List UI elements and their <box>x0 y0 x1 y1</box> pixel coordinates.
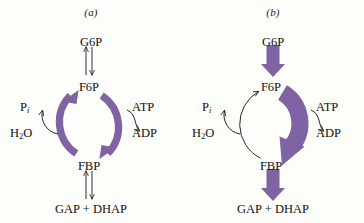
b-g6p-to-f6p-block-arrow <box>261 45 285 77</box>
b-left-cofactor-arrow <box>224 111 240 135</box>
a-label-h2o-o: O <box>23 126 32 140</box>
b-fbp-to-triose-block-arrow <box>261 169 285 201</box>
a-label-pi: Pi <box>20 101 29 114</box>
b-label-fbp: FBP <box>260 160 282 173</box>
a-label-h2o-h: H <box>10 126 19 140</box>
b-label-h2o: H2O <box>192 127 214 140</box>
b-label-pi: Pi <box>202 101 211 114</box>
a-label-gap-dhap: GAP + DHAP <box>55 203 127 216</box>
a-label-f6p: F6P <box>79 81 99 94</box>
b-label-pi-text: P <box>202 100 209 114</box>
a-label-adp: ADP <box>132 127 157 140</box>
b-label-g6p: G6P <box>262 36 284 49</box>
a-label-pi-subscript: i <box>27 105 29 115</box>
a-label-atp: ATP <box>132 101 154 114</box>
a-label-h2o: H2O <box>10 127 32 140</box>
b-label-pi-subscript: i <box>209 105 211 115</box>
b-label-f6p: F6P <box>261 81 281 94</box>
a-g6p-f6p-reversible-arrows <box>86 47 92 75</box>
a-label-fbp: FBP <box>78 160 100 173</box>
b-label-h2o-h: H <box>192 126 201 140</box>
a-label-pi-text: P <box>20 100 27 114</box>
a-fbp-triose-reversible-arrows <box>86 171 92 199</box>
figure-root: (a) <box>0 0 364 223</box>
a-label-g6p: G6P <box>80 36 102 49</box>
b-label-h2o-o: O <box>205 126 214 140</box>
b-left-arc-fbp-to-f6p <box>240 92 261 159</box>
panel-b: (b) <box>182 0 364 223</box>
a-left-cofactor-arrow <box>42 111 58 135</box>
b-label-gap-dhap: GAP + DHAP <box>237 203 309 216</box>
panel-a: (a) <box>0 0 182 223</box>
b-right-arc-f6p-to-fbp <box>280 93 305 166</box>
b-label-atp: ATP <box>316 101 338 114</box>
a-left-arc-fbp-to-f6p <box>59 90 78 154</box>
a-right-arc-f6p-to-fbp <box>99 95 118 159</box>
b-label-adp: ADP <box>316 127 341 140</box>
